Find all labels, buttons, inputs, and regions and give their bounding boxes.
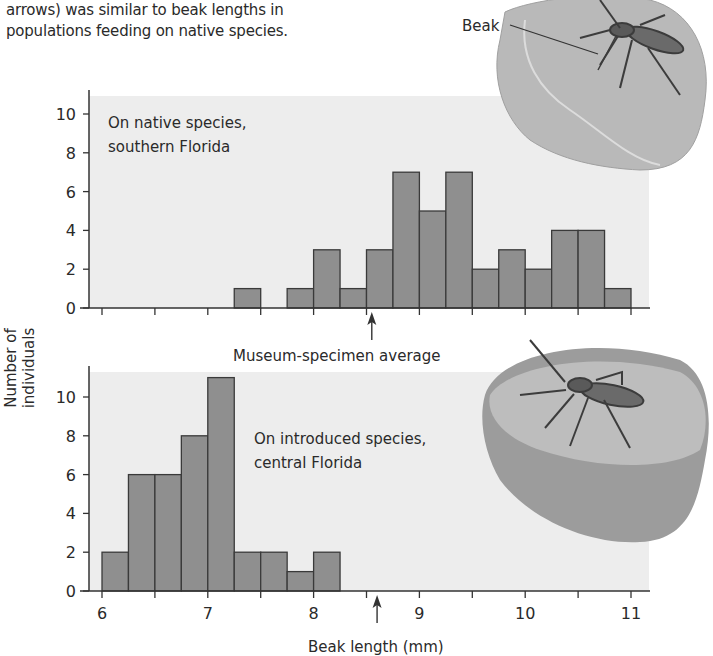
histogram-bar bbox=[605, 289, 631, 308]
museum-average-arrow-top bbox=[367, 312, 376, 340]
histogram-bar bbox=[314, 552, 340, 591]
x-tick-label: 10 bbox=[515, 604, 535, 623]
y-tick-label: 0 bbox=[66, 299, 76, 318]
histogram-bar bbox=[234, 289, 260, 308]
histogram-bar bbox=[472, 269, 498, 308]
histogram-bar bbox=[287, 289, 313, 308]
histogram-bar bbox=[525, 269, 551, 308]
top-panel-title-line-2: southern Florida bbox=[108, 138, 230, 156]
x-tick-label: 9 bbox=[414, 604, 424, 623]
beak-length-histograms: Beak 0246810 024681067891011 On native s… bbox=[0, 0, 713, 656]
x-tick-label: 6 bbox=[97, 604, 107, 623]
x-tick-label: 8 bbox=[309, 604, 319, 623]
histogram-bar bbox=[419, 211, 445, 308]
top-panel-title-line-1: On native species, bbox=[108, 114, 247, 132]
histogram-bar bbox=[393, 172, 419, 308]
bottom-panel-title-line-1: On introduced species, bbox=[254, 430, 426, 448]
y-tick-label: 6 bbox=[66, 183, 76, 202]
y-tick-label: 2 bbox=[66, 260, 76, 279]
y-tick-label: 6 bbox=[66, 466, 76, 485]
histogram-bar bbox=[234, 552, 260, 591]
histogram-bar bbox=[102, 552, 128, 591]
beak-label: Beak bbox=[462, 17, 500, 35]
y-tick-label: 10 bbox=[56, 105, 76, 124]
bottom-panel-title-line-2: central Florida bbox=[254, 454, 362, 472]
y-tick-label: 8 bbox=[66, 427, 76, 446]
y-axis-label: Number of individuals bbox=[2, 288, 38, 448]
museum-average-arrow-bottom bbox=[373, 595, 382, 623]
y-tick-label: 4 bbox=[66, 504, 76, 523]
histogram-bar bbox=[552, 230, 578, 308]
histogram-bar bbox=[155, 475, 181, 591]
y-tick-label: 0 bbox=[66, 582, 76, 601]
histogram-bar bbox=[314, 250, 340, 308]
museum-average-label: Museum-specimen average bbox=[233, 347, 441, 365]
histogram-bar bbox=[208, 378, 234, 591]
histogram-bar bbox=[181, 436, 207, 591]
histogram-bar bbox=[128, 475, 154, 591]
histogram-bar bbox=[446, 172, 472, 308]
histogram-bar bbox=[340, 289, 366, 308]
histogram-bar bbox=[261, 552, 287, 591]
histogram-bar bbox=[578, 230, 604, 308]
x-tick-label: 11 bbox=[621, 604, 641, 623]
histogram-bar bbox=[499, 250, 525, 308]
y-tick-label: 2 bbox=[66, 543, 76, 562]
histogram-bar bbox=[287, 572, 313, 591]
y-tick-label: 10 bbox=[56, 388, 76, 407]
x-tick-label: 7 bbox=[203, 604, 213, 623]
x-axis-label: Beak length (mm) bbox=[308, 638, 444, 656]
y-tick-label: 4 bbox=[66, 221, 76, 240]
y-tick-label: 8 bbox=[66, 144, 76, 163]
histogram-bar bbox=[367, 250, 393, 308]
